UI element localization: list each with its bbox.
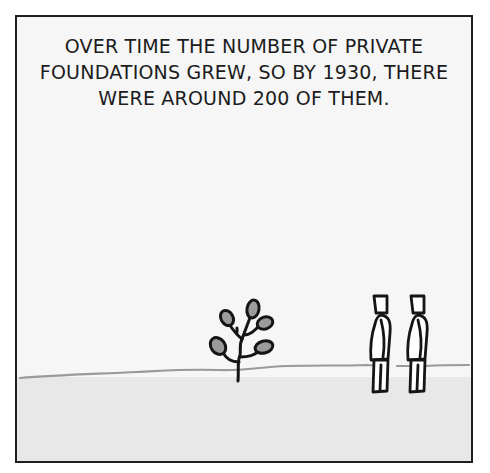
stick-figure-right bbox=[408, 296, 427, 392]
stick-figure-left bbox=[371, 296, 390, 392]
comic-panel: OVER TIME THE NUMBER OF PRIVATE FOUNDATI… bbox=[15, 15, 473, 463]
horizon-line bbox=[20, 365, 469, 378]
comic-scene bbox=[17, 17, 471, 461]
